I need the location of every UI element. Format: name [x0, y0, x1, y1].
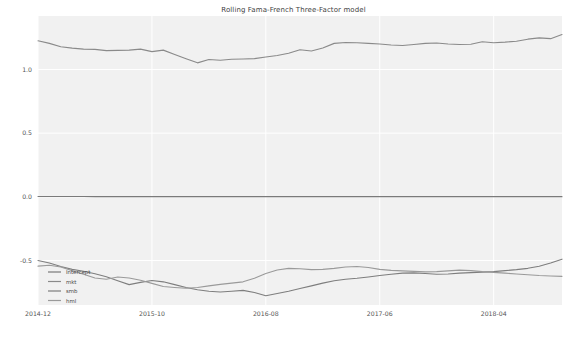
y-axis-tick-labels: 1.00.50.0-0.5: [20, 66, 32, 264]
plot-background-group: [38, 16, 562, 305]
x-axis-tick-labels: 2014-122015-102016-082017-062018-04: [25, 310, 507, 317]
legend-label-mkt: mkt: [66, 279, 77, 285]
y-tick-label-3: -0.5: [20, 257, 32, 264]
plot-area-background: [38, 16, 562, 305]
y-tick-label-1: 0.5: [22, 129, 32, 136]
y-tick-label-2: 0.0: [22, 193, 32, 200]
y-tick-label-0: 1.0: [22, 66, 32, 73]
x-tick-label-0: 2014-12: [25, 310, 51, 317]
x-tick-label-4: 2018-04: [481, 310, 507, 317]
line-chart-plot: 1.00.50.0-0.5 2014-122015-102016-082017-…: [0, 0, 587, 337]
legend-label-hml: hml: [66, 298, 76, 304]
chart-figure: Rolling Fama-French Three-Factor model 1…: [0, 0, 587, 337]
legend-label-smb: smb: [66, 288, 78, 294]
x-tick-label-1: 2015-10: [139, 310, 165, 317]
x-tick-label-2: 2016-08: [253, 310, 279, 317]
legend-label-intercept: Intercept: [66, 269, 90, 276]
x-tick-label-3: 2017-06: [367, 310, 393, 317]
